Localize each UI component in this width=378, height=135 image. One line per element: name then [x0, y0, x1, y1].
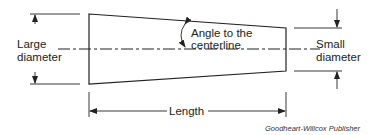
small-diameter-label-line1: Small [316, 38, 345, 50]
angle-label-line2: centerline [191, 39, 241, 51]
publisher-credit: Goodheart-Willcox Publisher [265, 124, 360, 133]
small-diameter-label-line2: diameter [316, 51, 361, 63]
large-diameter-label-line2: diameter [17, 51, 62, 63]
large-diameter-label-line1: Large [17, 38, 46, 50]
angle-label-line1: Angle to the [191, 27, 252, 39]
length-label: Length [169, 105, 204, 117]
angle-arc [181, 24, 185, 47]
